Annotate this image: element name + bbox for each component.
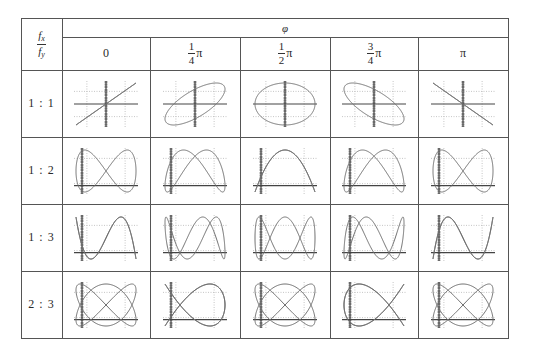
lissajous-plot-1-2-phase-4 xyxy=(429,146,497,196)
lissajous-plot-2-3-phase-2 xyxy=(251,280,319,330)
row-label-1-2: 1 : 2 xyxy=(21,137,62,204)
lissajous-plot-1-1-phase-1 xyxy=(161,79,229,129)
table-border-bottom xyxy=(21,338,509,339)
col-divider-3 xyxy=(330,37,331,338)
lissajous-plot-1-2-phase-1 xyxy=(161,146,229,196)
fy-subscript: y xyxy=(41,50,45,59)
lissajous-plot-1-2-phase-0 xyxy=(72,146,140,196)
lissajous-plot-2-3-phase-1 xyxy=(161,280,229,330)
row-divider-2 xyxy=(21,204,508,205)
lissajous-plot-1-1-phase-3 xyxy=(340,79,408,129)
col-header-phase-half-pi: 12π xyxy=(240,37,330,70)
col-header-phase-0: 0 xyxy=(62,37,150,70)
row-label-2-3: 2 : 3 xyxy=(21,271,62,338)
pi-symbol: π xyxy=(286,46,292,61)
lissajous-plot-2-3-phase-3 xyxy=(340,280,408,330)
lissajous-plot-1-3-phase-0 xyxy=(72,213,140,263)
lissajous-table: fx fy φ 0 14π 12π 34π π 1 : 1 1 : 2 1 : … xyxy=(21,18,508,338)
lissajous-plot-1-1-phase-2 xyxy=(251,79,319,129)
pi-symbol: π xyxy=(375,46,381,61)
row-label-1-3: 1 : 3 xyxy=(21,204,62,271)
header-bottom-divider xyxy=(21,70,508,71)
frac-denominator: 4 xyxy=(189,54,195,66)
lissajous-plot-2-3-phase-0 xyxy=(72,280,140,330)
frac-numerator: 1 xyxy=(188,41,196,54)
col-divider-1 xyxy=(150,37,151,338)
row-divider-1 xyxy=(21,137,508,138)
col-header-phase-pi: π xyxy=(418,37,508,70)
lissajous-plot-1-2-phase-2 xyxy=(251,146,319,196)
col-divider-4 xyxy=(418,37,419,338)
frac-numerator: 1 xyxy=(278,41,286,54)
pi-symbol: π xyxy=(196,46,202,61)
lissajous-plot-1-3-phase-3 xyxy=(340,213,408,263)
lissajous-plot-1-1-phase-0 xyxy=(72,79,140,129)
lissajous-plot-1-1-phase-4 xyxy=(429,79,497,129)
col-header-phase-quarter-pi: 14π xyxy=(150,37,240,70)
frac-numerator: 3 xyxy=(367,41,375,54)
table-border-right xyxy=(508,18,509,338)
lissajous-plot-1-3-phase-1 xyxy=(161,213,229,263)
col-divider-2 xyxy=(240,37,241,338)
col-header-phase-three-quarter-pi: 34π xyxy=(330,37,418,70)
fx-subscript: x xyxy=(41,34,45,43)
frac-denominator: 2 xyxy=(279,54,285,66)
lissajous-plot-2-3-phase-4 xyxy=(429,280,497,330)
row-divider-3 xyxy=(21,271,508,272)
frequency-ratio-header: fx fy xyxy=(21,18,62,70)
phase-group-header: φ xyxy=(62,18,508,37)
lissajous-plot-1-3-phase-4 xyxy=(429,213,497,263)
row-label-1-1: 1 : 1 xyxy=(21,70,62,137)
lissajous-plot-1-2-phase-3 xyxy=(340,146,408,196)
lissajous-plot-1-3-phase-2 xyxy=(251,213,319,263)
frac-denominator: 4 xyxy=(368,54,374,66)
